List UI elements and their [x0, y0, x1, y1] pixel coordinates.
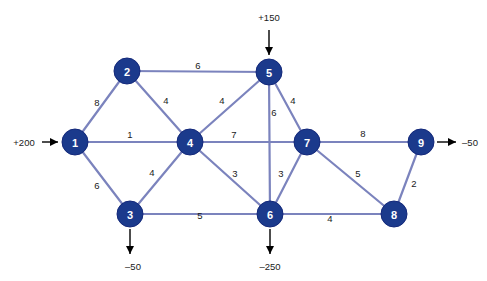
node-label-9: 9	[418, 137, 424, 149]
node-6[interactable]: 6	[257, 201, 283, 227]
supply-node-1-value: +200	[13, 137, 34, 148]
supply-node-1: +200	[13, 137, 58, 148]
edge-2-5	[127, 71, 269, 72]
edge-weight-6-7: 3	[278, 168, 283, 179]
edge-weight-2-4: 4	[163, 95, 168, 106]
node-label-6: 6	[267, 209, 273, 221]
node-3[interactable]: 3	[117, 201, 143, 227]
supply-node-5: +150	[258, 12, 279, 56]
node-label-8: 8	[391, 209, 397, 221]
node-label-5: 5	[266, 67, 272, 79]
node-label-4: 4	[187, 137, 194, 149]
node-1[interactable]: 1	[62, 129, 88, 155]
node-label-1: 1	[72, 137, 78, 149]
edge-weight-4-6: 3	[232, 168, 237, 179]
demand-node-6-value: –250	[259, 261, 280, 272]
edge-weight-4-5: 4	[219, 95, 224, 106]
edge-7-8	[307, 142, 394, 214]
supply-node-5-value: +150	[258, 12, 279, 23]
edge-weight-5-6: 6	[271, 107, 276, 118]
edge-weight-3-6: 5	[197, 210, 202, 221]
edge-weight-1-4: 1	[127, 129, 132, 140]
edge-weight-6-8: 4	[327, 213, 332, 224]
edges-layer	[75, 71, 421, 214]
network-graph-svg: +200+150–50–250–50 123456789 81664454736…	[0, 0, 487, 281]
edge-weight-8-9: 2	[411, 178, 416, 189]
edge-4-6	[190, 142, 270, 214]
node-5[interactable]: 5	[256, 59, 282, 85]
edge-weight-4-7: 7	[231, 129, 236, 140]
edge-weight-7-8: 5	[355, 168, 360, 179]
edge-weight-1-3: 6	[94, 180, 99, 191]
edge-weight-3-4: 4	[149, 167, 154, 178]
demand-node-9-value: –50	[462, 137, 478, 148]
edge-2-4	[127, 71, 190, 142]
edge-weight-2-5: 6	[195, 60, 200, 71]
node-8[interactable]: 8	[381, 201, 407, 227]
edge-5-6	[269, 72, 270, 214]
edge-weight-7-9: 8	[360, 128, 365, 139]
edge-1-3	[75, 142, 130, 214]
demand-node-3: –50	[125, 229, 141, 272]
node-7[interactable]: 7	[294, 129, 320, 155]
demand-node-9: –50	[437, 137, 478, 148]
node-label-7: 7	[304, 137, 310, 149]
node-label-2: 2	[124, 66, 130, 78]
edge-3-4	[130, 142, 190, 214]
network-diagram-canvas: +200+150–50–250–50 123456789 81664454736…	[0, 0, 487, 281]
node-4[interactable]: 4	[177, 129, 203, 155]
node-9[interactable]: 9	[408, 129, 434, 155]
edge-weight-5-7: 4	[290, 95, 295, 106]
node-2[interactable]: 2	[114, 58, 140, 84]
node-label-3: 3	[127, 209, 133, 221]
edge-4-5	[190, 72, 269, 142]
demand-node-6: –250	[259, 229, 280, 272]
demand-node-3-value: –50	[125, 261, 141, 272]
edge-weight-1-2: 8	[94, 97, 99, 108]
